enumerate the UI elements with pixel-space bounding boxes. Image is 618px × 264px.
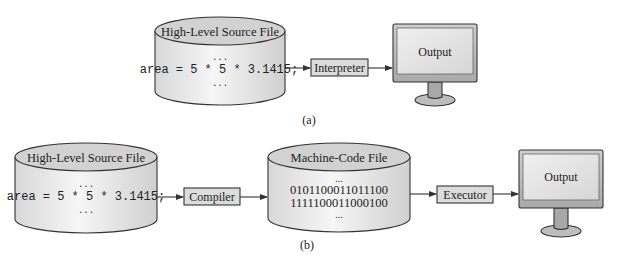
- ellipsis-bottom: ...: [78, 206, 94, 216]
- source-file-cylinder-a: High-Level Source File ... area = 5 * 5 …: [140, 17, 298, 105]
- machine-code-line-2: 1111100011000100: [290, 196, 388, 210]
- ellipsis-bottom: ...: [335, 209, 343, 220]
- source-file-title: High-Level Source File: [27, 151, 145, 165]
- output-label: Output: [418, 45, 452, 59]
- executor-box: Executor: [437, 186, 493, 203]
- part-b: High-Level Source File ... area = 5 * 5 …: [7, 143, 603, 252]
- machine-code-line-1: 0101100011011100: [290, 183, 388, 197]
- executor-label: Executor: [443, 188, 486, 202]
- compile-vs-interpret-diagram: High-Level Source File ... area = 5 * 5 …: [0, 0, 618, 264]
- caption-b: (b): [300, 238, 314, 252]
- part-a: High-Level Source File ... area = 5 * 5 …: [140, 17, 477, 127]
- output-monitor-a: Output: [393, 24, 477, 106]
- compiler-label: Compiler: [189, 190, 234, 204]
- caption-a: (a): [302, 113, 315, 127]
- source-file-title: High-Level Source File: [161, 25, 279, 39]
- output-label: Output: [544, 170, 578, 184]
- source-file-cylinder-b: High-Level Source File ... area = 5 * 5 …: [7, 143, 165, 233]
- source-code-line: area = 5 * 5 * 3.1415;: [7, 190, 165, 204]
- machine-code-file-cylinder: Machine-Code File ... 0101100011011100 1…: [268, 143, 410, 232]
- ellipsis-top: ...: [78, 180, 94, 190]
- ellipsis-top: ...: [212, 53, 228, 63]
- ellipsis-bottom: ...: [212, 79, 228, 89]
- compiler-box: Compiler: [184, 188, 240, 205]
- source-code-line: area = 5 * 5 * 3.1415;: [140, 63, 298, 77]
- interpreter-label: Interpreter: [314, 61, 365, 75]
- output-monitor-b: Output: [519, 150, 603, 237]
- machine-file-title: Machine-Code File: [291, 151, 388, 165]
- interpreter-box: Interpreter: [311, 59, 368, 76]
